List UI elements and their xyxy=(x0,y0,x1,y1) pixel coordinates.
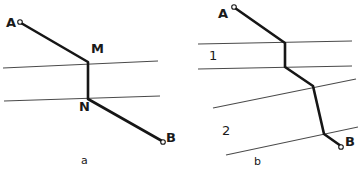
panel-b-label-medium-2: 2 xyxy=(222,124,230,137)
optics-refraction-figure: A M N B a A B 1 2 b xyxy=(0,0,358,178)
panel-a-group xyxy=(3,20,165,145)
panel-b-endpoint-b-dot xyxy=(339,145,344,150)
panel-b-boundary-3 xyxy=(213,79,356,108)
panel-a-label-N: N xyxy=(79,100,90,113)
panel-b-endpoint-a-dot xyxy=(232,5,237,10)
panel-a-label-M: M xyxy=(91,42,104,55)
panel-b-boundary-1 xyxy=(198,41,352,44)
panel-b-label-A: A xyxy=(218,7,228,20)
panel-b-boundary-2 xyxy=(198,66,352,69)
panel-a-endpoint-a-dot xyxy=(18,20,23,25)
panel-b-caption: b xyxy=(254,156,261,167)
panel-b-light-ray xyxy=(235,8,341,146)
panel-a-boundary-upper xyxy=(3,61,158,68)
panel-b-label-B: B xyxy=(345,135,355,148)
panel-b-label-medium-1: 1 xyxy=(209,49,217,62)
panel-b-boundary-4 xyxy=(226,127,358,155)
panel-a-caption: a xyxy=(81,155,88,166)
panel-a-label-B: B xyxy=(166,131,176,144)
figure-canvas xyxy=(0,0,358,178)
panel-a-label-A: A xyxy=(6,16,16,29)
panel-a-endpoint-b-dot xyxy=(161,140,166,145)
